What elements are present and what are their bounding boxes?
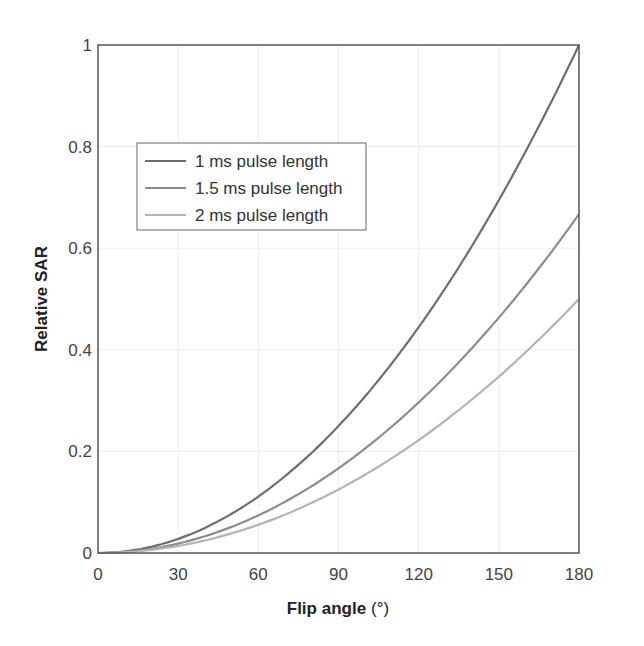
y-tick-label: 0.2 [68, 442, 92, 461]
x-tick-label: 0 [93, 565, 102, 584]
legend-label: 1 ms pulse length [195, 152, 328, 171]
sar-chart: 00.20.40.60.81 0306090120150180 Relative… [0, 0, 644, 646]
x-tick-label: 30 [169, 565, 188, 584]
y-tick-label: 0.6 [68, 239, 92, 258]
x-tick-label: 90 [329, 565, 348, 584]
y-tick-label: 1 [83, 36, 92, 55]
grid-lines [98, 45, 579, 553]
x-tick-label: 150 [485, 565, 513, 584]
x-axis-ticks: 0306090120150180 [93, 565, 593, 584]
legend-label: 2 ms pulse length [195, 206, 328, 225]
x-tick-label: 180 [565, 565, 593, 584]
x-axis-title: Flip angle(°) [287, 599, 389, 618]
x-tick-label: 60 [249, 565, 268, 584]
y-tick-label: 0.8 [68, 138, 92, 157]
legend-label: 1.5 ms pulse length [195, 179, 342, 198]
y-tick-label: 0 [83, 544, 92, 563]
y-axis-title: Relative SAR [32, 246, 51, 352]
legend: 1 ms pulse length1.5 ms pulse length2 ms… [137, 143, 366, 230]
y-axis-ticks: 00.20.40.60.81 [68, 36, 92, 563]
x-tick-label: 120 [404, 565, 432, 584]
y-tick-label: 0.4 [68, 341, 92, 360]
